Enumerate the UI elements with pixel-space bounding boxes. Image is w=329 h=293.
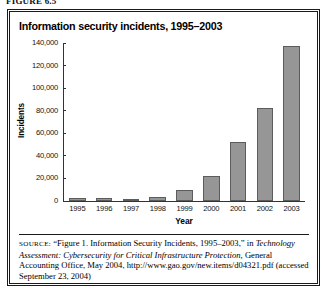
y-axis-title-text: Incidents — [18, 102, 27, 137]
bar — [283, 46, 300, 201]
x-axis-tick-labels: 199519961997199819992000200120022003 — [64, 204, 305, 216]
figure-title: Information security incidents, 1995–200… — [19, 20, 222, 32]
y-tick-label: 60,000 — [36, 128, 58, 137]
figure-frame: Information security incidents, 1995–200… — [7, 9, 320, 286]
y-tick-label: 140,000 — [32, 38, 58, 47]
chart-plot-area: Incidents 020,00040,00060,00080,000100,0… — [11, 39, 316, 229]
bar — [69, 198, 86, 201]
y-axis-title: Incidents — [15, 39, 29, 201]
x-axis-title: Year — [63, 216, 305, 226]
source-quote: “Figure 1. Information Security Incident… — [53, 238, 253, 248]
y-tick-label: 40,000 — [36, 151, 58, 160]
source-divider — [19, 234, 309, 235]
y-tick-label: 100,000 — [32, 83, 58, 92]
bar — [96, 198, 113, 201]
x-tick-label: 1995 — [64, 204, 91, 213]
y-tick-label: 80,000 — [36, 106, 58, 115]
source-note: SOURCE: “Figure 1. Information Security … — [19, 238, 311, 282]
bar — [203, 176, 220, 201]
x-tick-label: 1999 — [171, 204, 198, 213]
x-tick-label: 2002 — [251, 204, 278, 213]
bar — [257, 108, 274, 201]
x-tick-label: 1996 — [91, 204, 118, 213]
bar — [149, 197, 166, 201]
x-tick-label: 2001 — [225, 204, 252, 213]
bar — [230, 142, 247, 201]
y-tick-label: 20,000 — [36, 173, 58, 182]
bar — [176, 190, 193, 201]
source-label: SOURCE: — [19, 240, 51, 248]
bar-series — [64, 43, 305, 201]
running-head: FIGURE 6.5 — [6, 0, 57, 5]
figure-inner: Information security incidents, 1995–200… — [11, 13, 316, 282]
chart-axes: 020,00040,00060,00080,000100,000120,0001… — [63, 43, 305, 201]
x-tick-label: 1998 — [144, 204, 171, 213]
x-tick-label: 2000 — [198, 204, 225, 213]
y-tick-label: 120,000 — [32, 61, 58, 70]
x-tick-label: 1997 — [118, 204, 145, 213]
y-tick-label: 0 — [54, 196, 58, 205]
bar — [123, 199, 140, 201]
x-axis-line — [63, 201, 305, 202]
x-tick-label: 2003 — [278, 204, 305, 213]
